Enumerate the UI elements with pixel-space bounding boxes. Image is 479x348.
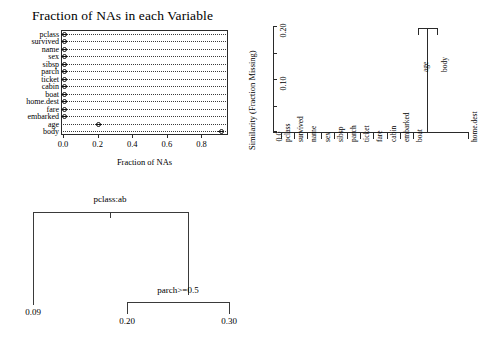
- dotchart-point-marker: [62, 54, 67, 59]
- dotchart-x-tick: [63, 135, 64, 138]
- dendrogram-y-axis-label: Similarity (Fraction Missing): [247, 50, 257, 150]
- dotchart-point-marker: [62, 114, 67, 119]
- dendrogram-leaf-stem: [413, 132, 414, 139]
- dotchart-point-marker: [62, 39, 67, 44]
- dotchart-leader-line: [63, 71, 226, 72]
- dotchart-plot-area: pclasssurvivednamesexsibspparchticketcab…: [61, 30, 228, 135]
- dotchart-leader-line: [63, 86, 226, 87]
- dotchart-x-tick-label: 0.8: [196, 139, 207, 149]
- tree-edge-left-branch: [33, 212, 34, 305]
- dotchart-x-tick-label: 0.0: [58, 139, 69, 149]
- dendrogram-leaf-label: pclass: [284, 124, 292, 142]
- dendrogram-leaf-label: embarked: [403, 112, 411, 142]
- dotchart-leader-line: [63, 34, 226, 35]
- dendrogram-leaf-stem: [334, 132, 335, 139]
- tree-root-tick: [110, 212, 111, 218]
- dotchart-point-marker: [62, 77, 67, 82]
- dotchart-leader-line: [63, 41, 226, 42]
- dendrogram-leaf-label: fare: [376, 130, 384, 142]
- dendrogram-y-minor-tick: [273, 106, 277, 107]
- tree-edge-mid-branch: [127, 302, 128, 314]
- dotchart-point-marker: [62, 62, 67, 67]
- missingness-dendrogram-panel: Similarity (Fraction Missing) 0.200.100.…: [245, 0, 476, 205]
- rpart-decision-tree-panel: pclass:ab 0.09 parch>=0.5 0.20 0.30: [0, 190, 250, 348]
- dotchart-leader-line: [63, 64, 226, 65]
- tree-edge-second-horizontal: [127, 302, 229, 303]
- tree-leaf-mid-value: 0.20: [119, 316, 135, 326]
- dotchart-row-label: body: [43, 128, 59, 136]
- dendrogram-leaf-label: parch: [350, 125, 358, 142]
- tree-node-second-label: parch>=0.5: [157, 285, 198, 295]
- dotchart-title: Fraction of NAs in each Variable: [0, 8, 245, 24]
- dotchart-leader-line: [63, 79, 226, 80]
- dendrogram-leaf-label: boat: [416, 129, 424, 142]
- dendrogram-leaf-stem: [468, 132, 469, 139]
- dotchart-x-tick: [167, 135, 168, 138]
- dotchart-x-tick-label: 0.4: [127, 139, 138, 149]
- dotchart-leader-line: [63, 56, 226, 57]
- dendrogram-leaf-label: ticket: [363, 125, 371, 142]
- dotchart-x-tick: [98, 135, 99, 138]
- dotchart-leader-line: [63, 131, 226, 132]
- dotchart-leader-line: [63, 109, 226, 110]
- dotchart-point-marker: [62, 92, 67, 97]
- dendrogram-leaf-label: cabin: [390, 126, 398, 142]
- na-fraction-dotchart-panel: Fraction of NAs in each Variable pclasss…: [0, 0, 245, 185]
- dendrogram-leaf-stem: [400, 132, 401, 139]
- dendrogram-leaf-stem: [347, 132, 348, 139]
- dotchart-x-tick-label: 0.6: [162, 139, 173, 149]
- dendrogram-y-tick: [273, 26, 277, 27]
- tree-leaf-right-value: 0.30: [221, 316, 237, 326]
- dotchart-leader-line: [63, 49, 226, 50]
- dotchart-leader-line: [63, 124, 226, 125]
- dotchart-point-marker: [62, 32, 67, 37]
- dendrogram-leaf-stem: [387, 132, 388, 139]
- dendrogram-y-tick-label: 0.10: [279, 77, 288, 91]
- dendrogram-leaf-label: name: [310, 126, 318, 142]
- dotchart-x-tick: [132, 135, 133, 138]
- dendrogram-y-tick: [273, 79, 277, 80]
- dendrogram-leaf-label: survived: [297, 116, 305, 142]
- dendrogram-leaf-label: sex: [324, 132, 332, 142]
- dendrogram-y-tick-label: 0.20: [279, 24, 288, 38]
- tree-edge-right-branch: [188, 212, 189, 295]
- dotchart-point-marker: [62, 69, 67, 74]
- tree-edge-far-right-branch: [229, 302, 230, 314]
- dotchart-leader-line: [63, 94, 226, 95]
- dotchart-leader-line: [63, 116, 226, 117]
- dotchart-x-axis: 0.00.20.40.60.8: [61, 135, 228, 155]
- dotchart-x-tick-label: 0.2: [92, 139, 103, 149]
- dendrogram-leaf-label-body: body: [441, 57, 449, 72]
- dotchart-point-marker: [96, 122, 101, 127]
- dotchart-point-marker: [62, 47, 67, 52]
- dotchart-x-tick: [201, 135, 202, 138]
- tree-node-root-label: pclass:ab: [94, 194, 127, 204]
- dotchart-leader-line: [63, 101, 226, 102]
- dotchart-x-axis-label: Fraction of NAs: [61, 157, 228, 167]
- dendrogram-cluster-right-stem: [437, 28, 438, 35]
- tree-leaf-left-value: 0.09: [25, 307, 41, 317]
- dotchart-point-marker: [62, 84, 67, 89]
- dotchart-point-marker: [219, 129, 224, 134]
- dotchart-point-marker: [62, 99, 67, 104]
- dendrogram-leaf-label-age: age: [422, 62, 430, 72]
- dendrogram-leaf-stem: [281, 132, 282, 139]
- dendrogram-cluster-left-stem: [418, 28, 419, 35]
- dendrogram-leaf-label: sibsp: [337, 127, 345, 142]
- dendrogram-cluster-stem: [427, 28, 428, 132]
- dotchart-point-marker: [62, 107, 67, 112]
- dendrogram-cluster-bar: [418, 28, 437, 29]
- dendrogram-leaf-stem: [321, 132, 322, 139]
- dendrogram-y-minor-tick: [273, 53, 277, 54]
- dendrogram-leaf-label: home.dest: [471, 111, 479, 142]
